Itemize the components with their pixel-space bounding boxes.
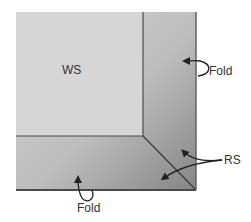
- folded-corner-diagram: WS Fold Fold RS: [0, 0, 251, 222]
- fold-right-label: Fold: [209, 64, 232, 78]
- right-side-label: RS: [224, 153, 241, 167]
- fold-bottom-label: Fold: [77, 201, 100, 215]
- wrong-side-label: WS: [62, 63, 81, 77]
